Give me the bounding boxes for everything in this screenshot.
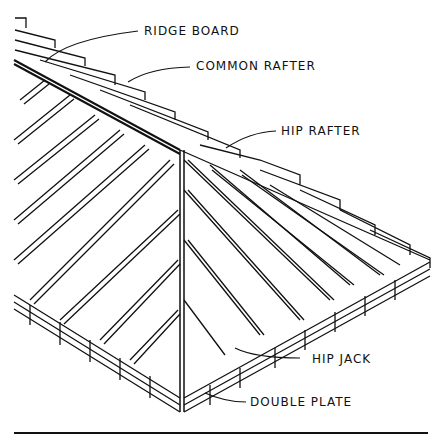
right-rafters (184, 160, 400, 355)
right-double-plate (184, 262, 430, 412)
leader-lines (45, 31, 300, 402)
label-common-rafter: COMMON RAFTER (196, 59, 316, 73)
common-rafter-tails (15, 18, 240, 158)
ridge-board (14, 60, 180, 154)
label-double-plate: DOUBLE PLATE (250, 395, 352, 409)
bottom-rule (14, 432, 428, 434)
left-double-plate (14, 295, 180, 412)
left-rafters (14, 80, 180, 364)
roof-framing-diagram: RIDGE BOARD COMMON RAFTER HIP RAFTER HIP… (0, 0, 438, 437)
label-ridge-board: RIDGE BOARD (144, 24, 240, 38)
label-hip-jack: HIP JACK (312, 352, 371, 366)
label-hip-rafter: HIP RAFTER (281, 124, 361, 138)
hip-rafter (180, 150, 184, 412)
